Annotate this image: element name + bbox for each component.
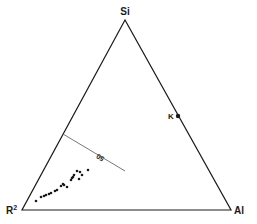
data-point <box>79 171 82 174</box>
marked-point-k <box>176 114 180 118</box>
data-point <box>35 200 38 203</box>
data-points <box>35 169 90 203</box>
data-point <box>87 169 90 172</box>
data-point <box>50 192 53 195</box>
vertex-label-al: Al <box>234 205 244 216</box>
data-point <box>78 178 81 181</box>
vertex-label-r2: R2 <box>6 204 17 216</box>
vertex-label-si: Si <box>120 6 130 17</box>
data-point <box>76 170 79 173</box>
ternary-diagram: 50 K Si R2 Al <box>0 0 257 224</box>
marked-point-label: K <box>168 112 174 121</box>
data-point <box>73 174 76 177</box>
data-point <box>63 184 66 187</box>
data-point <box>66 186 69 189</box>
data-point <box>56 189 59 192</box>
tie-line-50 <box>63 134 125 171</box>
data-point <box>40 196 43 199</box>
ternary-triangle <box>22 20 231 210</box>
data-point <box>60 185 63 188</box>
data-point <box>45 194 48 197</box>
data-point <box>81 174 84 177</box>
